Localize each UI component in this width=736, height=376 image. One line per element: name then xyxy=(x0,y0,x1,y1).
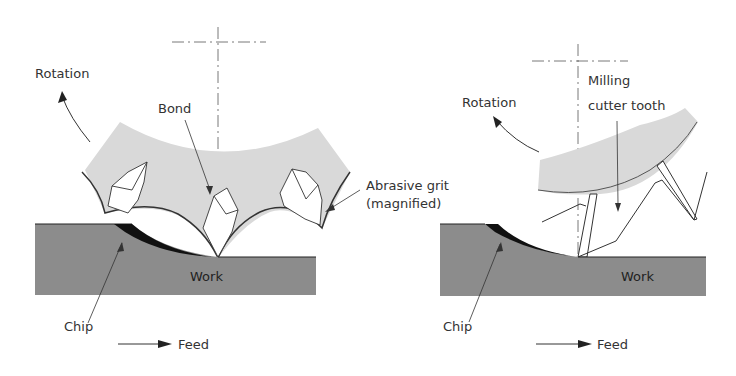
rotation-label: Rotation xyxy=(462,95,516,110)
rotation-arrow xyxy=(496,120,539,152)
abrasive-grit-label-line1: Abrasive grit xyxy=(366,178,449,193)
milling-label-line1: Milling xyxy=(588,73,630,88)
rotation-label: Rotation xyxy=(35,66,89,81)
tooth-pointer xyxy=(615,203,621,212)
milling-label-line2: cutter tooth xyxy=(588,98,665,113)
work-piece xyxy=(440,224,706,296)
bond-label: Bond xyxy=(158,101,191,116)
abrasive-grit-label-line2: (magnified) xyxy=(366,196,441,211)
chip-label: Chip xyxy=(64,319,93,334)
chip-label: Chip xyxy=(443,319,472,334)
right-panel xyxy=(440,44,707,348)
work-label: Work xyxy=(190,269,223,284)
work-label: Work xyxy=(621,269,654,284)
feed-label: Feed xyxy=(597,337,628,352)
work-piece xyxy=(35,224,316,295)
rotation-arrow xyxy=(62,96,90,142)
feed-label: Feed xyxy=(178,337,209,352)
